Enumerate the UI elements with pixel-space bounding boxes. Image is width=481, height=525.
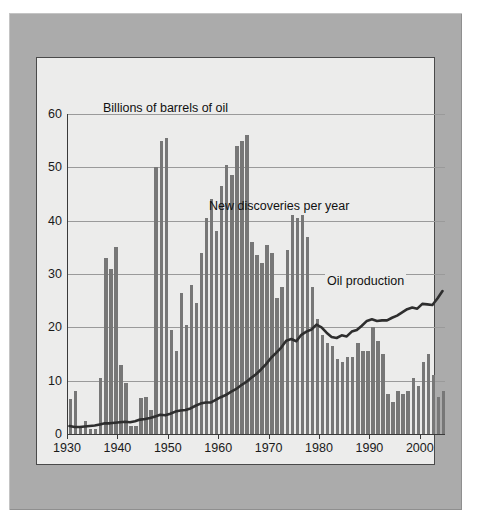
x-axis-line <box>67 434 445 435</box>
bar-1949 <box>165 138 168 434</box>
bar-1967 <box>255 255 258 434</box>
bar-1986 <box>351 357 354 434</box>
annotation-oil-production: Oil production <box>325 274 406 289</box>
bar-1940 <box>119 365 122 434</box>
x-tick-label-1980: 1980 <box>305 442 333 455</box>
bar-1932 <box>79 426 82 434</box>
x-tick-1980 <box>319 434 320 439</box>
bar-1995 <box>396 391 399 434</box>
bar-1992 <box>381 354 384 434</box>
bar-1970 <box>270 253 273 434</box>
bar-1930 <box>69 399 72 434</box>
bar-1957 <box>205 218 208 434</box>
x-tick-label-2000: 2000 <box>406 442 434 455</box>
bar-1969 <box>265 245 268 434</box>
bar-2003 <box>437 397 440 434</box>
bar-1979 <box>316 319 319 434</box>
x-tick-label-1970: 1970 <box>255 442 283 455</box>
bar-1956 <box>200 253 203 434</box>
bar-1963 <box>235 146 238 434</box>
bar-1968 <box>260 263 263 434</box>
y-tick-label-30: 30 <box>48 268 62 281</box>
bar-1972 <box>280 287 283 434</box>
bar-1943 <box>134 426 137 434</box>
x-tick-1960 <box>218 434 219 439</box>
bar-1976 <box>301 215 304 434</box>
bar-1994 <box>391 402 394 434</box>
bar-1938 <box>109 269 112 434</box>
bar-1987 <box>356 343 359 434</box>
bar-2002 <box>432 375 435 434</box>
bar-1999 <box>417 386 420 434</box>
bar-1947 <box>154 167 157 434</box>
bar-1991 <box>376 341 379 434</box>
bar-1959 <box>215 231 218 434</box>
x-tick-1990 <box>369 434 370 439</box>
bar-1944 <box>139 398 142 434</box>
bar-1950 <box>170 330 173 434</box>
y-tick-label-0: 0 <box>55 428 62 441</box>
x-tick-label-1950: 1950 <box>154 442 182 455</box>
y-tick-label-10: 10 <box>48 374 62 387</box>
bar-1951 <box>175 351 178 434</box>
x-tick-label-1960: 1960 <box>204 442 232 455</box>
x-tick-1950 <box>168 434 169 439</box>
y-tick-label-20: 20 <box>48 321 62 334</box>
bar-1954 <box>190 285 193 434</box>
screenshot-root: Billions of barrels of oil 0102030405060… <box>0 0 481 525</box>
figure-outer-frame: Billions of barrels of oil 0102030405060… <box>9 13 462 510</box>
bar-1993 <box>386 394 389 434</box>
y-tick-label-60: 60 <box>48 108 62 121</box>
bar-1974 <box>291 215 294 434</box>
bar-1985 <box>346 357 349 434</box>
annotation-new-discoveries: New discoveries per year <box>209 200 349 213</box>
bar-1939 <box>114 247 117 434</box>
x-tick-1970 <box>269 434 270 439</box>
bar-1936 <box>99 378 102 434</box>
bar-1953 <box>185 325 188 434</box>
x-tick-label-1930: 1930 <box>53 442 81 455</box>
bar-1945 <box>144 397 147 434</box>
bar-1935 <box>94 429 97 434</box>
bar-1942 <box>129 426 132 434</box>
bar-1960 <box>220 186 223 434</box>
bar-1980 <box>321 335 324 434</box>
bar-1977 <box>306 237 309 434</box>
bar-1973 <box>286 250 289 434</box>
bar-1933 <box>84 421 87 434</box>
bar-1971 <box>275 298 278 434</box>
bar-1983 <box>336 359 339 434</box>
y-tick-label-50: 50 <box>48 161 62 174</box>
x-tick-1930 <box>67 434 68 439</box>
bar-1958 <box>210 199 213 434</box>
y-axis-title: Billions of barrels of oil <box>103 102 228 115</box>
bar-1941 <box>124 383 127 434</box>
bar-1934 <box>89 429 92 434</box>
bar-1975 <box>296 218 299 434</box>
bar-1990 <box>371 327 374 434</box>
bar-1981 <box>326 343 329 434</box>
bar-1966 <box>250 242 253 434</box>
bar-1962 <box>230 175 233 434</box>
plot-area: Billions of barrels of oil 0102030405060… <box>67 114 445 434</box>
bar-1989 <box>366 351 369 434</box>
bar-1965 <box>245 135 248 434</box>
bar-2001 <box>427 354 430 434</box>
bar-1982 <box>331 346 334 434</box>
bar-1984 <box>341 362 344 434</box>
bar-1948 <box>160 141 163 434</box>
bar-1937 <box>104 258 107 434</box>
x-tick-2000 <box>420 434 421 439</box>
bar-1931 <box>74 391 77 434</box>
bar-1946 <box>149 410 152 434</box>
bar-2004 <box>442 391 445 434</box>
bar-1964 <box>240 141 243 434</box>
bar-1998 <box>412 378 415 434</box>
bar-2000 <box>422 362 425 434</box>
bar-1952 <box>180 293 183 434</box>
chart-panel: Billions of barrels of oil 0102030405060… <box>36 57 435 465</box>
y-tick-label-40: 40 <box>48 214 62 227</box>
x-tick-label-1940: 1940 <box>103 442 131 455</box>
bar-1988 <box>361 351 364 434</box>
x-tick-1940 <box>117 434 118 439</box>
